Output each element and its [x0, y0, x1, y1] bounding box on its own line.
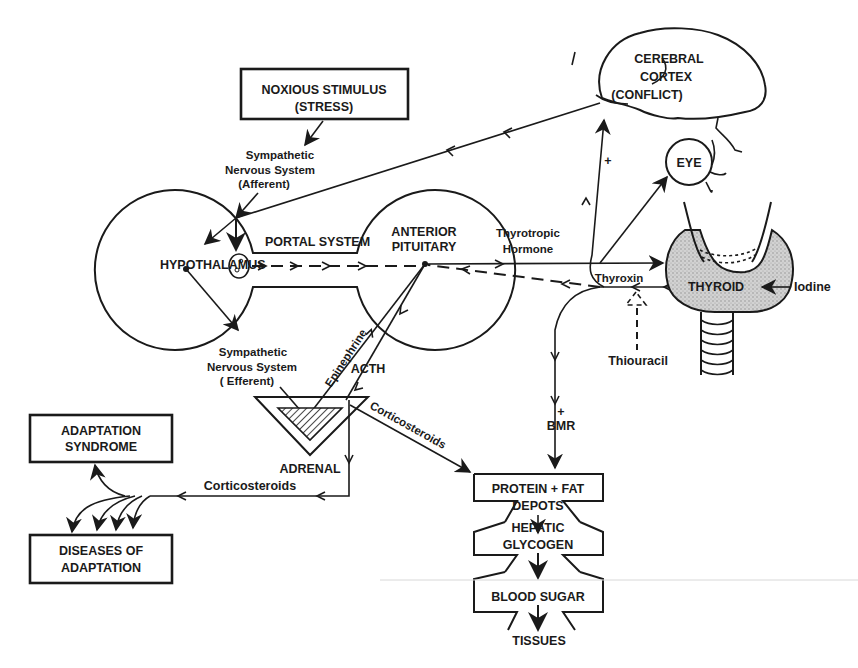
thyroid-node: THYROID: [666, 202, 793, 375]
corticosteroids-diagonal-label: Corticosteroids: [368, 399, 448, 451]
to-diseases-arrow-4: [133, 496, 150, 528]
thyroxin-label: Thyroxin: [595, 272, 644, 284]
cerebral-cortex-node: CEREBRAL CORTEX (CONFLICT): [572, 28, 766, 119]
eye-node: EYE: [666, 118, 742, 192]
svg-text:(Afferent): (Afferent): [238, 178, 290, 190]
bmr-label: BMR: [547, 419, 575, 433]
to-adaptation-syndrome-arrow: [95, 465, 125, 496]
sns-efferent-label: Sympathetic Nervous System ( Efferent): [207, 346, 297, 387]
bmr-plus-sign: +: [557, 405, 564, 419]
thiouracil-label: Thiouracil: [608, 354, 668, 368]
thyroxin-to-eye-arrow: [600, 177, 667, 263]
hypothalamus-input-arrow: [205, 218, 236, 244]
blood-sugar-label: BLOOD SUGAR: [491, 590, 585, 604]
arrowhead-icon: [447, 146, 455, 156]
adaptation-label-2: ADAPTATION: [61, 561, 141, 575]
stress-to-sns-arrow: [305, 121, 323, 145]
metabolic-chain: PROTEIN + FAT DEPOTS HEPATIC GLYCOGEN BL…: [474, 474, 603, 648]
adaptation-label: ADAPTATION: [61, 424, 141, 438]
glycogen-label: GLYCOGEN: [503, 538, 573, 552]
stress-label: (STRESS): [295, 100, 353, 114]
anterior-label: ANTERIOR: [391, 225, 456, 239]
diseases-of-adaptation-box: DISEASES OF ADAPTATION: [30, 535, 172, 583]
depots-label: DEPOTS: [512, 499, 563, 513]
svg-text:Sympathetic: Sympathetic: [219, 346, 288, 358]
noxious-stimulus-label: NOXIOUS STIMULUS: [261, 83, 386, 97]
thyroid-label: THYROID: [688, 280, 744, 294]
svg-text:Hormone: Hormone: [503, 243, 553, 255]
protein-fat-label: PROTEIN + FAT: [492, 482, 585, 496]
svg-text:Thyrotropic: Thyrotropic: [496, 227, 560, 239]
svg-text:Sympathetic: Sympathetic: [246, 149, 315, 161]
conflict-label: (CONFLICT): [611, 88, 683, 102]
dumbbell-outline: [95, 190, 515, 350]
thyrotropic-hormone-label: Thyrotropic Hormone: [496, 227, 560, 255]
arrowhead-icon: [400, 305, 408, 314]
hypothalamus-pituitary-complex: HYPOTHALAMUS PORTAL SYSTEM ANTERIOR PITU…: [95, 190, 515, 350]
adrenal-node: ADRENAL: [255, 397, 368, 476]
diseases-of-label: DISEASES OF: [59, 544, 143, 558]
corticosteroids-to-depots-arrow: [350, 405, 470, 472]
sns-afferent-label: Sympathetic Nervous System (Afferent): [225, 149, 315, 190]
syndrome-label: SYNDROME: [65, 440, 137, 454]
thyroxin-to-cortex-arrow: [590, 120, 604, 287]
svg-text:Nervous System: Nervous System: [207, 361, 297, 373]
pituitary-label: PITUITARY: [392, 240, 457, 254]
svg-text:Nervous System: Nervous System: [225, 164, 315, 176]
eye-label: EYE: [676, 156, 701, 170]
tissues-label: TISSUES: [512, 634, 566, 648]
epinephrine-label: Epinephrine: [323, 327, 369, 389]
cortex-plus-sign: +: [604, 154, 611, 168]
iodine-label: Iodine: [794, 280, 831, 294]
cerebral-label: CEREBRAL: [634, 52, 704, 66]
svg-text:( Efferent): ( Efferent): [220, 375, 274, 387]
hepatic-label: HEPATIC: [511, 521, 564, 535]
arrowhead-icon: [582, 198, 590, 205]
portal-system-label: PORTAL SYSTEM: [265, 235, 370, 249]
thiouracil-inhibitor-icon: [626, 292, 646, 305]
hpa-thyroid-stress-diagram: NOXIOUS STIMULUS (STRESS) Sympathetic Ne…: [0, 0, 858, 668]
cortex-label: CORTEX: [640, 70, 693, 84]
arrowhead-icon: [504, 128, 512, 138]
sns-efferent-arrow: [186, 269, 238, 330]
thyroxin-to-depots-arrow: [555, 287, 600, 468]
noxious-stimulus-box: NOXIOUS STIMULUS (STRESS): [241, 69, 408, 119]
corticosteroids-horizontal-label: Corticosteroids: [204, 479, 296, 493]
thyrotropic-hormone-arrow: [425, 263, 663, 264]
adrenal-label: ADRENAL: [279, 462, 340, 476]
trachea-rings-icon: [701, 320, 733, 375]
acth-label: ACTH: [351, 362, 386, 376]
adaptation-syndrome-box: ADAPTATION SYNDROME: [30, 415, 172, 462]
